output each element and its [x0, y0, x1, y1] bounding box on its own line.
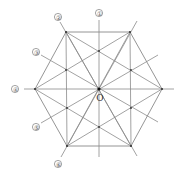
vertex-point [34, 88, 36, 90]
vertex-point [130, 145, 132, 147]
center-point [97, 87, 100, 90]
intersection-point [66, 107, 68, 109]
axis-label-5: ⑤ [32, 123, 39, 130]
center-label: O [96, 93, 103, 103]
svg-text:⑤: ⑤ [34, 124, 39, 131]
svg-text:②: ② [56, 14, 61, 21]
vertex-point [66, 145, 68, 147]
axis-label-1: ① [95, 9, 102, 16]
vertex-point [161, 88, 163, 90]
intersection-point [65, 69, 67, 71]
hexagon-symmetry-diagram: O ① ② ③ ④ ⑤ ⑥ [0, 0, 184, 176]
hexagon-edge-upper-right [130, 32, 162, 89]
svg-text:⑥: ⑥ [56, 161, 61, 168]
axis-label-2: ② [54, 13, 61, 20]
intersection-point [98, 50, 100, 52]
intersection-point [98, 126, 100, 128]
axis-labels: ① ② ③ ④ ⑤ ⑥ [11, 9, 102, 167]
svg-text:④: ④ [13, 86, 18, 93]
svg-text:①: ① [97, 10, 102, 17]
intersection-point [130, 107, 132, 109]
vertex-point [65, 31, 67, 33]
hexagon-edge-lower-right [131, 89, 162, 146]
axis-label-3: ③ [32, 48, 39, 55]
svg-text:③: ③ [34, 49, 39, 56]
axis-label-4: ④ [11, 85, 18, 92]
intersection-point [130, 69, 132, 71]
vertex-point [129, 31, 131, 33]
axis-label-6: ⑥ [54, 160, 61, 167]
